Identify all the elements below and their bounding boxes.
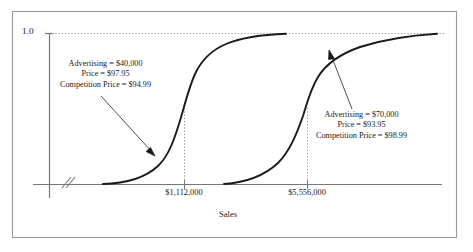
annotation-left-line-1: Advertising = $40,000 [60,59,151,69]
arrowhead-left [146,148,155,157]
curve-first-scenario [103,34,286,184]
axis-break-icon [62,177,75,188]
x-tick-label-first: $1,112,000 [150,188,218,197]
annotation-right-line-3: Competition Price = $98.99 [316,131,407,141]
y-axis-max-label: 1.0 [22,26,33,36]
annotation-left-line-2: Price = $97.95 [60,69,151,79]
arrowhead-right [329,50,335,60]
annotation-right-leader [329,50,353,109]
annotation-left-leader [101,96,155,156]
annotation-left-line-3: Competition Price = $94.99 [60,80,151,90]
x-axis-title: Sales [194,209,262,219]
annotation-right-line-2: Price = $93.95 [316,120,407,130]
annotation-right: Advertising = $70,000 Price = $93.95 Com… [316,110,407,141]
annotation-right-line-1: Advertising = $70,000 [316,110,407,120]
x-tick-label-second: $5,556,000 [273,188,341,197]
annotation-left: Advertising = $40,000 Price = $97.95 Com… [60,59,151,90]
figure-container: 1.0 Advertising = $40,000 Price = $97.95… [0,0,473,252]
